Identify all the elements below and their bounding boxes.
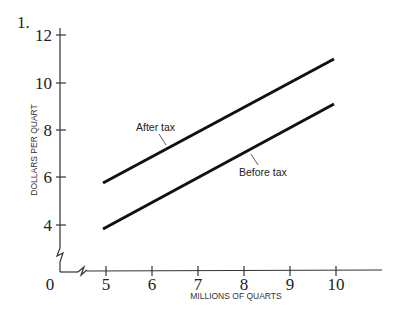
after-tax-leader bbox=[159, 134, 166, 145]
problem-number: 1. bbox=[17, 13, 30, 32]
x-axis-label: MILLIONS OF QUARTS bbox=[190, 291, 282, 301]
svg-text:12: 12 bbox=[35, 26, 52, 45]
y-axis bbox=[56, 28, 66, 272]
supply-chart: 1. 12 10 8 6 4 DOLLARS PER QUART 0 5 6 7… bbox=[0, 0, 400, 314]
before-tax-leader bbox=[251, 154, 258, 165]
svg-text:6: 6 bbox=[148, 275, 157, 294]
y-axis-label: DOLLARS PER QUART bbox=[29, 104, 39, 195]
svg-text:0: 0 bbox=[46, 275, 55, 294]
svg-text:4: 4 bbox=[44, 216, 53, 235]
svg-text:9: 9 bbox=[286, 275, 295, 294]
svg-text:10: 10 bbox=[328, 275, 345, 294]
svg-text:6: 6 bbox=[44, 168, 53, 187]
after-tax-label: After tax bbox=[136, 121, 176, 133]
svg-text:8: 8 bbox=[44, 121, 53, 140]
svg-text:10: 10 bbox=[35, 74, 52, 93]
before-tax-label: Before tax bbox=[239, 166, 288, 178]
svg-text:5: 5 bbox=[102, 275, 111, 294]
